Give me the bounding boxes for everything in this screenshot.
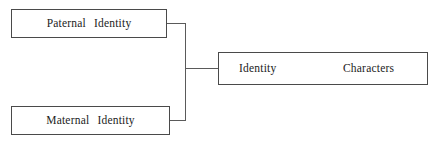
connector-result-stub	[186, 68, 218, 69]
node-maternal-identity-label: Maternal Identity	[46, 115, 135, 127]
node-characters-label: Characters	[343, 63, 394, 75]
node-paternal-identity-label: Paternal Identity	[47, 18, 132, 30]
connector-maternal-stub	[170, 120, 186, 121]
node-identity-characters[interactable]: Identity Characters	[218, 52, 428, 85]
connector-paternal-stub	[167, 23, 186, 24]
node-identity-label: Identity	[239, 63, 276, 75]
node-maternal-identity[interactable]: Maternal Identity	[11, 106, 170, 135]
diagram-canvas: Paternal Identity Maternal Identity Iden…	[0, 0, 442, 145]
node-paternal-identity[interactable]: Paternal Identity	[11, 9, 167, 38]
connector-vertical-trunk	[185, 23, 186, 121]
